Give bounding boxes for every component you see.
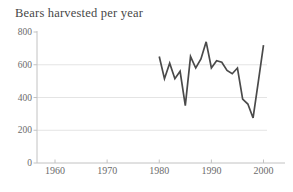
y-tick-label-800: 800 — [18, 27, 33, 37]
y-tick-label-400: 400 — [18, 93, 33, 103]
line-chart-canvas: 020040060080019601970198019902000 — [0, 0, 293, 192]
y-tick-label-0: 0 — [27, 158, 32, 168]
bears-harvested-figure: Bears harvested per year 020040060080019… — [0, 0, 293, 192]
y-tick-label-200: 200 — [18, 125, 33, 135]
x-tick-label-2000: 2000 — [254, 165, 274, 176]
x-tick-label-1990: 1990 — [201, 165, 221, 176]
x-tick-label-1960: 1960 — [45, 165, 65, 176]
data-line-bears-harvested — [159, 42, 263, 118]
x-tick-label-1970: 1970 — [97, 165, 117, 176]
y-tick-label-600: 600 — [18, 60, 33, 70]
x-tick-label-1980: 1980 — [149, 165, 169, 176]
